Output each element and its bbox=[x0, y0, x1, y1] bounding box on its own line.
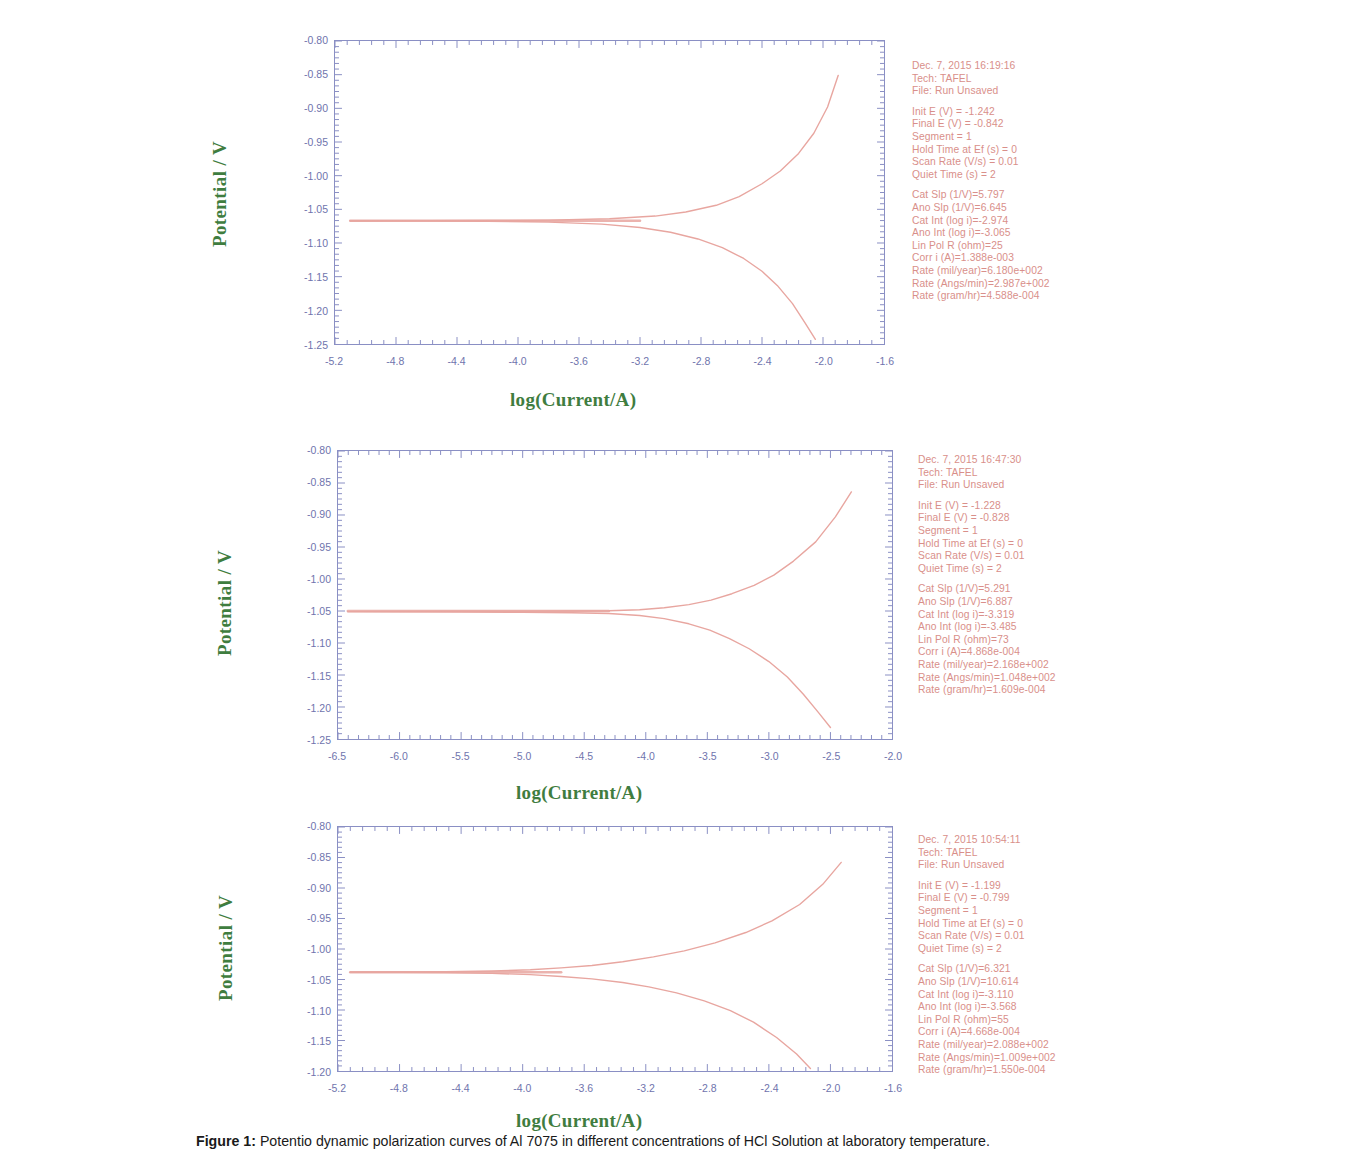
y-tick-label: -0.80 bbox=[288, 34, 328, 46]
y-tick-label: -1.10 bbox=[288, 237, 328, 249]
info-line-init-e: Init E (V) = -1.228 bbox=[918, 500, 1056, 513]
info-line-ano-int: Ano Int (log i)=-3.065 bbox=[912, 227, 1050, 240]
y-tick-label: -1.00 bbox=[288, 170, 328, 182]
x-tick-label: -2.0 bbox=[822, 1082, 840, 1094]
info-line-rate-gram: Rate (gram/hr)=1.609e-004 bbox=[918, 684, 1056, 697]
info-line-datetime: Dec. 7, 2015 10:54:11 bbox=[918, 834, 1056, 847]
x-tick-label: -5.2 bbox=[325, 355, 343, 367]
info-line-scan-rate: Scan Rate (V/s) = 0.01 bbox=[918, 930, 1056, 943]
y-tick-label: -1.20 bbox=[291, 702, 331, 714]
polarization-panel-3: Potential / V -0.80-0.85-0.90-0.95-1.00-… bbox=[0, 812, 1355, 1132]
y-tick-label: -1.10 bbox=[291, 637, 331, 649]
y-tick-label: -0.85 bbox=[291, 476, 331, 488]
x-axis-title-3: log(Current/A) bbox=[516, 1110, 642, 1132]
y-tick-label: -1.20 bbox=[288, 305, 328, 317]
x-tick-label: -5.0 bbox=[513, 750, 531, 762]
info-spacer bbox=[912, 181, 1050, 189]
plot-area-1 bbox=[334, 40, 885, 345]
instrument-parameters-3: Dec. 7, 2015 10:54:11Tech: TAFELFile: Ru… bbox=[918, 834, 1056, 1077]
y-tick-label: -1.15 bbox=[291, 670, 331, 682]
y-tick-label: -0.95 bbox=[291, 912, 331, 924]
info-line-init-e: Init E (V) = -1.242 bbox=[912, 106, 1050, 119]
x-tick-label: -6.5 bbox=[328, 750, 346, 762]
plot-area-2 bbox=[337, 450, 893, 740]
info-line-init-e: Init E (V) = -1.199 bbox=[918, 880, 1056, 893]
y-axis-title-3: Potential / V bbox=[215, 868, 237, 1028]
info-line-corr-i: Corr i (A)=4.868e-004 bbox=[918, 646, 1056, 659]
x-tick-label: -2.0 bbox=[884, 750, 902, 762]
info-line-lin-pol-r: Lin Pol R (ohm)=55 bbox=[918, 1014, 1056, 1027]
x-tick-label: -1.6 bbox=[884, 1082, 902, 1094]
x-tick-label: -3.6 bbox=[575, 1082, 593, 1094]
info-line-quiet-time: Quiet Time (s) = 2 bbox=[912, 169, 1050, 182]
info-line-tech: Tech: TAFEL bbox=[912, 73, 1050, 86]
info-line-final-e: Final E (V) = -0.842 bbox=[912, 118, 1050, 131]
info-line-lin-pol-r: Lin Pol R (ohm)=73 bbox=[918, 634, 1056, 647]
y-tick-label: -1.00 bbox=[291, 943, 331, 955]
y-tick-label: -1.25 bbox=[291, 734, 331, 746]
info-line-final-e: Final E (V) = -0.799 bbox=[918, 892, 1056, 905]
info-line-rate-mil: Rate (mil/year)=6.180e+002 bbox=[912, 265, 1050, 278]
info-line-corr-i: Corr i (A)=4.668e-004 bbox=[918, 1026, 1056, 1039]
info-spacer bbox=[918, 955, 1056, 963]
info-line-rate-angs: Rate (Angs/min)=1.048e+002 bbox=[918, 672, 1056, 685]
x-tick-label: -4.0 bbox=[637, 750, 655, 762]
info-line-segment: Segment = 1 bbox=[912, 131, 1050, 144]
x-tick-label: -4.8 bbox=[386, 355, 404, 367]
x-tick-label: -2.8 bbox=[692, 355, 710, 367]
y-tick-label: -0.85 bbox=[291, 851, 331, 863]
x-tick-label: -3.2 bbox=[631, 355, 649, 367]
info-line-corr-i: Corr i (A)=1.388e-003 bbox=[912, 252, 1050, 265]
x-tick-label: -2.8 bbox=[699, 1082, 717, 1094]
y-axis-title-2: Potential / V bbox=[214, 523, 236, 683]
y-tick-label: -1.10 bbox=[291, 1005, 331, 1017]
plot-area-3 bbox=[337, 826, 893, 1072]
y-tick-label: -1.20 bbox=[291, 1066, 331, 1078]
info-spacer bbox=[918, 872, 1056, 880]
x-tick-label: -3.5 bbox=[699, 750, 717, 762]
instrument-parameters-2: Dec. 7, 2015 16:47:30Tech: TAFELFile: Ru… bbox=[918, 454, 1056, 697]
y-tick-label: -1.25 bbox=[288, 339, 328, 351]
figure-page: Potential / V -0.80-0.85-0.90-0.95-1.00-… bbox=[0, 0, 1355, 1170]
info-line-file: File: Run Unsaved bbox=[918, 479, 1056, 492]
info-line-datetime: Dec. 7, 2015 16:47:30 bbox=[918, 454, 1056, 467]
y-tick-label: -0.80 bbox=[291, 820, 331, 832]
info-line-cat-int: Cat Int (log i)=-3.319 bbox=[918, 609, 1056, 622]
x-tick-label: -6.0 bbox=[390, 750, 408, 762]
info-line-rate-mil: Rate (mil/year)=2.088e+002 bbox=[918, 1039, 1056, 1052]
info-line-segment: Segment = 1 bbox=[918, 525, 1056, 538]
info-line-rate-gram: Rate (gram/hr)=1.550e-004 bbox=[918, 1064, 1056, 1077]
figure-caption: Figure 1: Potentio dynamic polarization … bbox=[196, 1132, 1196, 1151]
polarization-panel-1: Potential / V -0.80-0.85-0.90-0.95-1.00-… bbox=[0, 18, 1355, 418]
x-tick-label: -4.5 bbox=[575, 750, 593, 762]
info-spacer bbox=[918, 575, 1056, 583]
info-line-file: File: Run Unsaved bbox=[918, 859, 1056, 872]
x-tick-label: -4.4 bbox=[452, 1082, 470, 1094]
info-line-rate-angs: Rate (Angs/min)=2.987e+002 bbox=[912, 278, 1050, 291]
figure-caption-label: Figure 1: bbox=[196, 1133, 256, 1149]
figure-caption-text: Potentio dynamic polarization curves of … bbox=[260, 1133, 990, 1149]
y-tick-label: -0.90 bbox=[288, 102, 328, 114]
info-line-scan-rate: Scan Rate (V/s) = 0.01 bbox=[912, 156, 1050, 169]
info-line-hold-time: Hold Time at Ef (s) = 0 bbox=[912, 144, 1050, 157]
y-tick-label: -1.15 bbox=[288, 271, 328, 283]
y-tick-label: -1.05 bbox=[291, 974, 331, 986]
info-line-tech: Tech: TAFEL bbox=[918, 467, 1056, 480]
info-line-ano-slp: Ano Slp (1/V)=6.887 bbox=[918, 596, 1056, 609]
info-line-tech: Tech: TAFEL bbox=[918, 847, 1056, 860]
info-line-segment: Segment = 1 bbox=[918, 905, 1056, 918]
info-line-hold-time: Hold Time at Ef (s) = 0 bbox=[918, 918, 1056, 931]
info-line-ano-int: Ano Int (log i)=-3.485 bbox=[918, 621, 1056, 634]
info-line-ano-slp: Ano Slp (1/V)=6.645 bbox=[912, 202, 1050, 215]
x-tick-label: -3.0 bbox=[760, 750, 778, 762]
x-tick-label: -4.8 bbox=[390, 1082, 408, 1094]
info-line-rate-angs: Rate (Angs/min)=1.009e+002 bbox=[918, 1052, 1056, 1065]
y-tick-label: -0.90 bbox=[291, 882, 331, 894]
y-tick-label: -0.95 bbox=[288, 136, 328, 148]
x-tick-label: -2.0 bbox=[815, 355, 833, 367]
x-tick-label: -3.2 bbox=[637, 1082, 655, 1094]
x-tick-label: -2.4 bbox=[754, 355, 772, 367]
info-line-cat-int: Cat Int (log i)=-2.974 bbox=[912, 215, 1050, 228]
info-line-quiet-time: Quiet Time (s) = 2 bbox=[918, 943, 1056, 956]
x-axis-title-2: log(Current/A) bbox=[516, 782, 642, 804]
